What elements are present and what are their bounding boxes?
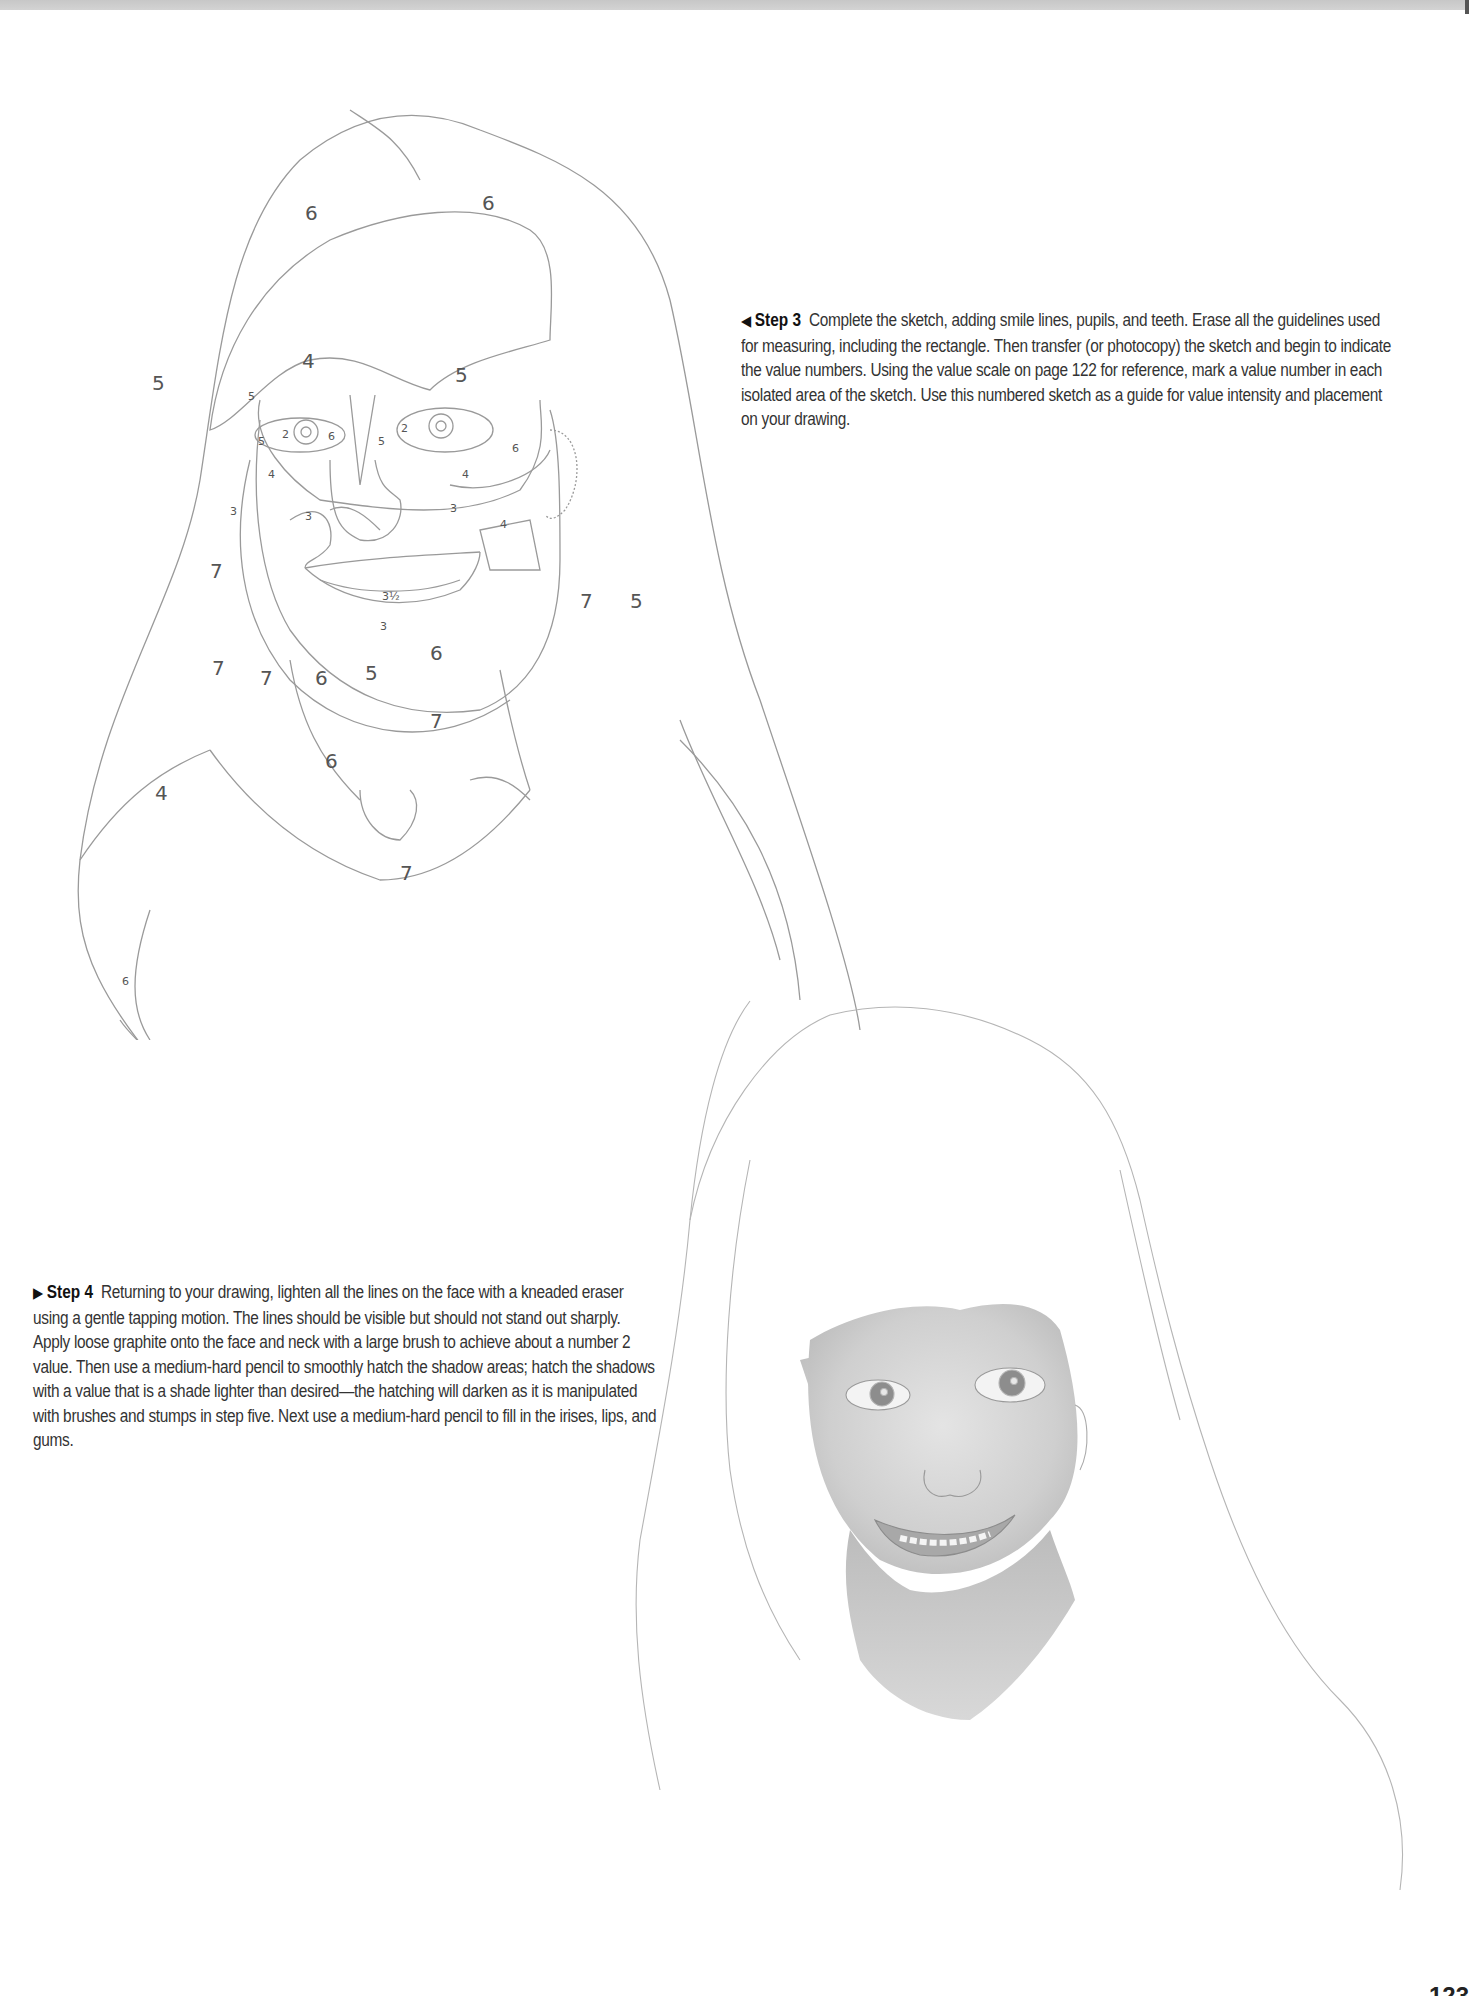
step-3-text: Complete the sketch, adding smile lines,… [741,310,1391,429]
value-hair-top-right: 6 [482,191,495,215]
page-number: 123 [1429,1984,1469,1996]
value-eye-right-white: 2 [401,422,408,435]
value-jaw-under: 3 [380,620,387,633]
step-4-text: Returning to your drawing, lighten all t… [33,1282,656,1450]
arrow-left-icon: ◀ [741,312,751,329]
value-ear: 6 [512,442,519,455]
value-eye-left-outer: 5 [258,435,265,448]
shaded-portrait-drawing [620,1000,1420,1900]
value-nose-bridge: 5 [378,435,385,448]
value-brow-left: 5 [248,390,255,403]
numbered-value-sketch: 6 6 4 5 5 5 5 2 2 6 5 4 4 3 3 3 4 6 3½ 3… [60,100,880,1040]
value-hair-left: 5 [152,371,165,395]
value-hair-right-outer: 5 [630,589,643,613]
value-hair-top: 6 [305,201,318,225]
value-hair-right-lower: 7 [580,589,593,613]
value-neck-right: 6 [430,641,443,665]
value-neck-left: 7 [260,666,273,690]
value-forehead: 4 [302,349,315,373]
value-neck-bottom: 6 [325,749,338,773]
value-shoulder-left: 4 [155,781,168,805]
value-hair-left-lower: 7 [210,559,223,583]
page-corner-mark [1465,0,1469,14]
arrow-right-icon: ▶ [33,1284,43,1301]
value-cheek-lower-left: 3 [305,510,312,523]
step-4-caption: ▶Step 4 Returning to your drawing, light… [33,1280,658,1453]
value-cheek-right: 4 [462,468,469,481]
page-top-edge [0,0,1469,10]
value-nose-side-left: 6 [328,430,335,443]
step-3-caption: ◀Step 3 Complete the sketch, adding smil… [741,308,1392,432]
value-cheek-left: 4 [268,468,275,481]
value-cheek-patch-right: 4 [500,518,507,531]
value-shirt: 7 [400,861,413,885]
value-neck-shadow-left: 7 [212,656,225,680]
value-neck-center: 5 [365,661,378,685]
step-3-label: Step 3 [755,310,801,330]
value-jaw-left: 3 [230,505,237,518]
value-hair-right: 5 [455,363,468,387]
step-4-label: Step 4 [47,1282,93,1302]
value-neck-mid: 6 [315,666,328,690]
value-cheek-lower-right: 3 [450,502,457,515]
value-eye-left-white: 2 [282,428,289,441]
value-hair-tip: 6 [122,975,129,988]
value-collar-right: 7 [430,709,443,733]
value-chin: 3½ [382,590,400,603]
